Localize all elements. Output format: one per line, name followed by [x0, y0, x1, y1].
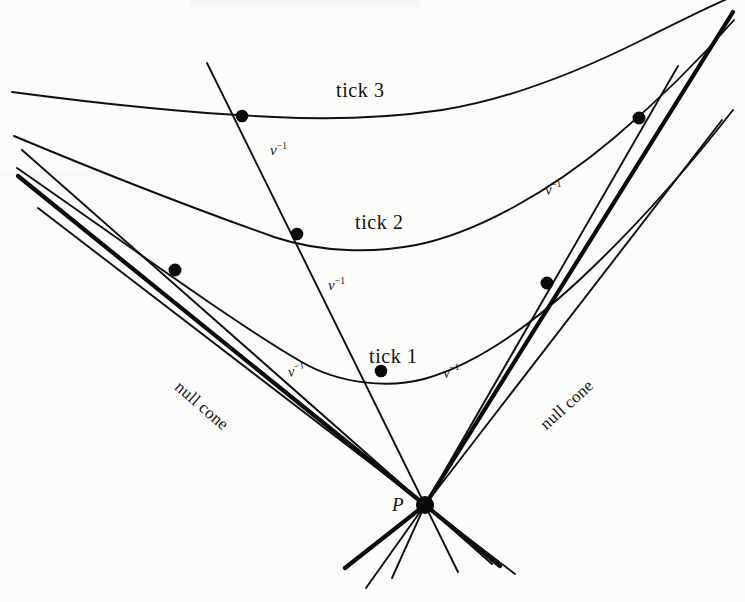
- tick-curves-group: [12, 0, 734, 384]
- event-dots-group: [169, 110, 646, 378]
- worldline-center: [207, 63, 425, 505]
- figure-root: tick 3 tick 2 tick 1 v−1 v−1 v−1 v−1 v−1…: [0, 0, 745, 602]
- tick-2-label: tick 2: [355, 212, 404, 232]
- v-inverse-label-center-lower: v−1: [328, 277, 345, 293]
- event-dot-tick2-right: [541, 277, 554, 290]
- v-inverse-label-right-lower: v−1: [442, 363, 461, 381]
- v-exponent: −1: [335, 276, 346, 286]
- worldline-left-outer: [38, 208, 425, 505]
- vertex-point-p: [416, 496, 434, 514]
- v-exponent: −1: [277, 141, 288, 151]
- worldline-left-outer-past: [425, 505, 515, 574]
- vertex-label-p: P: [392, 495, 404, 514]
- v-inverse-label-center-upper: v−1: [270, 142, 287, 158]
- worldline-left: [22, 150, 425, 505]
- tick-1-label: tick 1: [369, 346, 418, 366]
- event-dot-tick2-center: [291, 228, 304, 241]
- event-dot-tick3-right: [633, 112, 646, 125]
- event-dot-tick3-center: [236, 110, 249, 123]
- worldline-center-past: [425, 505, 458, 572]
- v-inverse-label-left: v−1: [287, 361, 307, 380]
- null-cone-right-past-line: [345, 505, 425, 568]
- v-exponent: −1: [448, 362, 460, 373]
- tick-1-curve: [17, 110, 733, 384]
- v-inverse-label-right-upper: v−1: [544, 180, 563, 198]
- event-dot-tick1-left: [169, 264, 182, 277]
- v-exponent: −1: [293, 360, 305, 372]
- v-symbol: v: [270, 142, 277, 158]
- worldlines-group: [22, 63, 722, 588]
- v-symbol: v: [328, 277, 335, 293]
- v-exponent: −1: [550, 179, 562, 190]
- null-cone-right-line: [425, 12, 733, 505]
- tick-3-label: tick 3: [336, 80, 385, 100]
